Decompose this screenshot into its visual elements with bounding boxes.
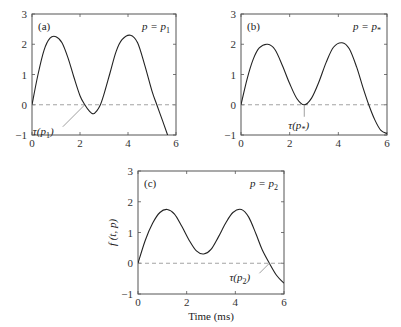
tau-annotation: τ(p2) <box>229 271 250 286</box>
y-tick-label: 1 <box>231 69 237 81</box>
y-axis-label: f (t, p) <box>106 219 119 247</box>
x-tick-label: 2 <box>184 296 190 308</box>
panel-tag: (a) <box>38 20 51 33</box>
plot-frame <box>138 171 284 294</box>
y-tick-label: 3 <box>231 8 237 20</box>
x-tick-label: 2 <box>77 137 83 149</box>
plot-frame <box>32 14 176 135</box>
panel-b: 0246−10123(b)p = p*τ(p*) <box>224 8 390 149</box>
x-tick-label: 2 <box>287 137 293 149</box>
panel-c: 0246−10123(c)p = p2τ(p2)Time (ms)f (t, p… <box>106 165 287 323</box>
x-tick-label: 0 <box>238 137 244 149</box>
x-tick-label: 4 <box>336 137 342 149</box>
y-tick-label: 0 <box>22 99 28 111</box>
y-tick-label: 2 <box>231 38 237 50</box>
parameter-label: p = p1 <box>141 20 170 35</box>
x-tick-label: 4 <box>233 296 239 308</box>
x-tick-label: 6 <box>281 296 287 308</box>
y-tick-label: 0 <box>231 99 237 111</box>
y-tick-label: 3 <box>22 8 28 20</box>
x-tick-label: 0 <box>29 137 35 149</box>
y-tick-label: −1 <box>121 288 133 300</box>
panel-tag: (c) <box>144 177 157 190</box>
panel-a: 0246−10123(a)p = p1τ(p1) <box>15 8 179 149</box>
figure-canvas: 0246−10123(a)p = p1τ(p1)0246−10123(b)p =… <box>0 0 401 327</box>
parameter-label: p = p* <box>352 20 381 35</box>
x-tick-label: 6 <box>384 137 390 149</box>
y-tick-label: 2 <box>22 38 28 50</box>
parameter-label: p = p2 <box>249 177 278 192</box>
y-tick-label: −1 <box>15 129 27 141</box>
x-tick-label: 0 <box>135 296 141 308</box>
y-tick-label: 0 <box>128 257 134 269</box>
y-tick-label: 1 <box>22 69 28 81</box>
x-tick-label: 4 <box>125 137 131 149</box>
y-tick-label: 1 <box>128 227 134 239</box>
y-tick-label: 2 <box>128 196 134 208</box>
x-axis-label: Time (ms) <box>188 310 234 323</box>
y-tick-label: −1 <box>224 129 236 141</box>
x-tick-label: 6 <box>173 137 179 149</box>
y-tick-label: 3 <box>128 165 134 177</box>
data-curve <box>138 209 284 283</box>
tau-annotation: τ(p*) <box>288 119 309 134</box>
plot-frame <box>241 14 387 135</box>
data-curve <box>241 43 387 134</box>
tau-annotation: τ(p1) <box>33 125 54 140</box>
data-curve <box>32 35 168 135</box>
panel-tag: (b) <box>247 20 260 33</box>
